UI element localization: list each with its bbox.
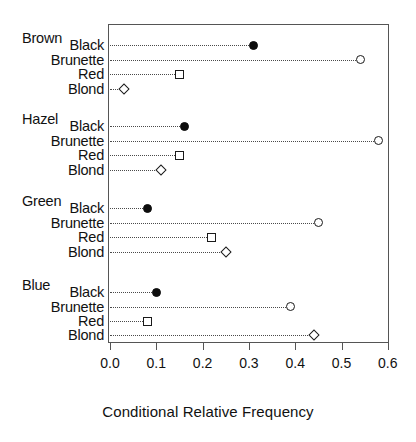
data-point-green-red — [207, 233, 216, 242]
group-label-blue: Blue — [22, 278, 50, 293]
row-label-brown-blond: Blond — [68, 82, 104, 97]
row-label-green-black: Black — [70, 201, 104, 216]
leader-line-hazel-blond — [110, 170, 157, 171]
leader-line-brown-black — [110, 45, 249, 46]
x-tick-5 — [342, 343, 343, 350]
data-point-hazel-black — [180, 122, 189, 131]
leader-line-hazel-black — [110, 126, 180, 127]
x-tick-label-2: 0.2 — [183, 356, 223, 370]
x-tick-2 — [203, 343, 204, 350]
x-tick-label-0: 0.0 — [90, 356, 130, 370]
plot-frame — [108, 24, 389, 343]
data-point-green-black — [143, 204, 152, 213]
row-label-green-red: Red — [78, 230, 104, 245]
row-label-blue-black: Black — [70, 285, 104, 300]
data-point-green-brunette — [314, 218, 323, 227]
row-label-brown-brunette: Brunette — [51, 53, 104, 68]
x-tick-label-1: 0.1 — [136, 356, 176, 370]
x-tick-1 — [156, 343, 157, 350]
row-label-brown-red: Red — [78, 67, 104, 82]
row-label-brown-black: Black — [70, 38, 104, 53]
leader-line-hazel-red — [110, 155, 175, 156]
row-label-hazel-brunette: Brunette — [51, 134, 104, 149]
row-label-blue-blond: Blond — [68, 328, 104, 343]
x-tick-label-3: 0.3 — [229, 356, 269, 370]
leader-line-brown-brunette — [110, 60, 356, 61]
group-label-brown: Brown — [22, 31, 62, 46]
group-label-hazel: Hazel — [22, 112, 58, 127]
leader-line-blue-black — [110, 292, 152, 293]
row-label-green-blond: Blond — [68, 245, 104, 260]
leader-line-green-black — [110, 208, 143, 209]
row-label-hazel-black: Black — [70, 119, 104, 134]
x-tick-4 — [295, 343, 296, 350]
leader-line-blue-red — [110, 321, 143, 322]
row-label-hazel-red: Red — [78, 148, 104, 163]
row-label-hazel-blond: Blond — [68, 163, 104, 178]
leader-line-blue-blond — [110, 335, 310, 336]
x-tick-0 — [110, 343, 111, 350]
x-tick-label-5: 0.5 — [322, 356, 362, 370]
x-tick-3 — [249, 343, 250, 350]
x-axis-title: Conditional Relative Frequency — [0, 403, 416, 420]
data-point-brown-brunette — [356, 55, 365, 64]
row-label-blue-brunette: Brunette — [51, 300, 104, 315]
data-point-hazel-red — [175, 151, 184, 160]
leader-line-green-brunette — [110, 223, 314, 224]
data-point-blue-brunette — [286, 302, 295, 311]
x-tick-label-4: 0.4 — [275, 356, 315, 370]
leader-line-green-blond — [110, 252, 222, 253]
data-point-brown-red — [175, 70, 184, 79]
x-tick-label-6: 0.6 — [368, 356, 408, 370]
group-label-green: Green — [22, 194, 61, 209]
leader-line-hazel-brunette — [110, 141, 374, 142]
data-point-blue-red — [143, 317, 152, 326]
data-point-blue-black — [152, 288, 161, 297]
data-point-hazel-brunette — [374, 136, 383, 145]
x-tick-6 — [388, 343, 389, 350]
dot-plot-figure: BrownBlackBrunetteRedBlondHazelBlackBrun… — [0, 0, 416, 442]
data-point-brown-black — [249, 41, 258, 50]
leader-line-brown-red — [110, 74, 175, 75]
leader-line-green-red — [110, 237, 207, 238]
row-label-green-brunette: Brunette — [51, 216, 104, 231]
leader-line-blue-brunette — [110, 307, 286, 308]
